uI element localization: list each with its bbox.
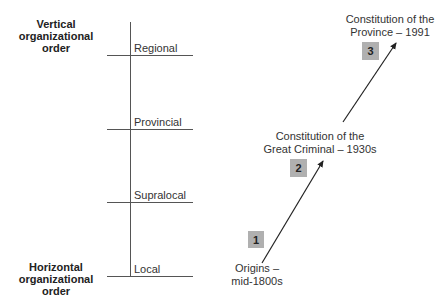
stage-3-label-line: Province – 1991 — [340, 26, 440, 39]
stage-1-badge: 1 — [248, 231, 264, 248]
stage-1-label-line: Origins – — [222, 262, 292, 275]
stage-2-badge: 2 — [290, 159, 307, 177]
stage-3-badge: 3 — [362, 42, 379, 60]
stage-3-label-line: Constitution of the — [340, 13, 440, 26]
stage-1-label: Origins – mid-1800s — [222, 262, 292, 288]
stage-1-label-line: mid-1800s — [222, 275, 292, 288]
stage-2-label-line: Great Criminal – 1930s — [255, 143, 385, 156]
stage-3-label: Constitution of the Province – 1991 — [340, 13, 440, 39]
stage-2-label: Constitution of the Great Criminal – 193… — [255, 130, 385, 156]
stage-2-label-line: Constitution of the — [255, 130, 385, 143]
